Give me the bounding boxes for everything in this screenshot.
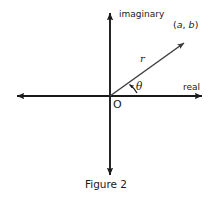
point-paren-close: ) [195, 19, 199, 30]
complex-plane-figure: imaginary real (a, b) r θ O Figure 2 [0, 0, 212, 198]
theta-label: θ [136, 81, 142, 92]
origin-label: O [113, 99, 122, 110]
radius-vector [110, 43, 184, 96]
point-ab-label: (a, b) [173, 20, 198, 30]
real-axis-label: real [183, 83, 200, 92]
imaginary-axis-label: imaginary [119, 10, 164, 19]
figure-caption: Figure 2 [0, 179, 212, 190]
radius-label: r [140, 54, 145, 64]
